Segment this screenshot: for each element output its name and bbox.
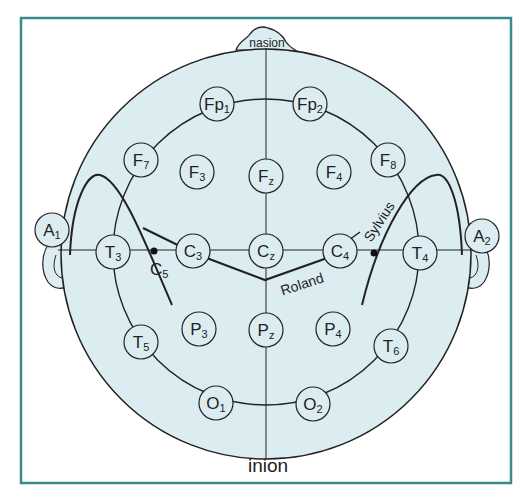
electrode-t3: T3 [96,235,130,269]
electrode-c3: C3 [176,234,210,268]
electrode-f3: F3 [180,155,214,189]
nasion-label: nasion [249,36,284,50]
electrode-o1: O1 [199,386,233,420]
electrode-f8: F8 [371,143,405,177]
electrode-cz: Cz [249,234,283,268]
electrode-p4: P4 [316,312,350,346]
c6-point [371,250,378,257]
electrode-fp1: Fp1 [200,87,234,121]
electrode-f4: F4 [317,155,351,189]
electrode-a2: A2 [465,219,499,253]
eeg-electrode-diagram: nasion inion Roland Sylvius C5 Fp1Fp2F7F… [0,0,525,496]
electrode-f7: F7 [124,143,158,177]
electrode-a1: A1 [35,213,69,247]
electrode-t4: T4 [403,236,437,270]
electrode-t5: T5 [124,325,158,359]
electrode-fp2: Fp2 [293,87,327,121]
electrode-fz: Fz [249,159,283,193]
c5-point [151,248,158,255]
electrode-c4: C4 [323,234,357,268]
inion-label: inion [248,455,288,476]
electrode-o2: O2 [296,387,330,421]
electrode-t6: T6 [374,329,408,363]
electrode-pz: Pz [249,313,283,347]
electrode-p3: P3 [182,312,216,346]
